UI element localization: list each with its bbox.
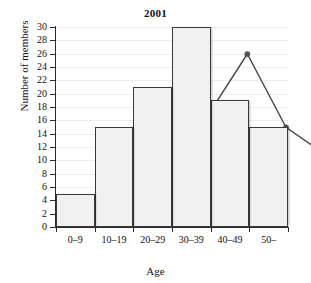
x-axis-tick (56, 227, 57, 232)
y-axis-tick-label: 10 (7, 155, 47, 165)
y-axis-tick-label: 18 (7, 102, 47, 112)
y-axis-tick (50, 147, 55, 148)
x-axis-title: Age (0, 265, 311, 277)
y-axis-tick-label: 20 (7, 89, 47, 99)
x-axis-tick-label: 0–9 (56, 234, 95, 245)
y-axis-tick (50, 214, 55, 215)
x-axis-tick (249, 227, 250, 232)
data-point-marker (245, 51, 250, 56)
y-axis-tick (50, 187, 55, 188)
y-axis-tick (50, 134, 55, 135)
y-axis-tick-label: 0 (7, 222, 47, 232)
bar (211, 100, 250, 227)
y-axis-tick-label: 24 (7, 62, 47, 72)
bar (249, 127, 288, 227)
y-axis-tick (50, 54, 55, 55)
x-axis-tick (95, 227, 96, 232)
bar (95, 127, 134, 227)
y-axis-tick-label: 14 (7, 129, 47, 139)
y-axis-tick-label: 6 (7, 182, 47, 192)
y-axis-tick (50, 94, 55, 95)
x-axis-tick (288, 227, 289, 232)
x-axis-tick-label: 40–49 (211, 234, 250, 245)
chart-title: 2001 (0, 7, 311, 19)
y-axis-tick-label: 8 (7, 169, 47, 179)
y-axis-tick (50, 67, 55, 68)
plot-area (56, 27, 288, 227)
x-axis-tick-label: 30–39 (172, 234, 211, 245)
bar (133, 87, 172, 227)
y-axis-tick-label: 4 (7, 195, 47, 205)
y-axis-tick-label: 2 (7, 209, 47, 219)
y-axis-tick (50, 40, 55, 41)
bar (172, 27, 211, 227)
x-axis-tick (133, 227, 134, 232)
x-axis-tick (211, 227, 212, 232)
y-axis-tick (50, 107, 55, 108)
bar (56, 194, 95, 227)
y-axis-tick-label: 12 (7, 142, 47, 152)
y-axis-tick (50, 27, 55, 28)
y-axis-tick (50, 200, 55, 201)
x-axis-tick (172, 227, 173, 232)
x-axis-tick-label: 10–19 (95, 234, 134, 245)
y-axis-tick (50, 227, 55, 228)
y-axis-tick-label: 26 (7, 49, 47, 59)
y-axis-tick (50, 174, 55, 175)
y-axis-tick-label: 22 (7, 75, 47, 85)
chart-figure: 2001 Number of members 02468101214161820… (0, 0, 311, 283)
y-axis-tick (50, 160, 55, 161)
y-axis-tick (50, 120, 55, 121)
x-axis-tick-label: 50– (249, 234, 288, 245)
y-axis-tick-label: 28 (7, 35, 47, 45)
x-axis-tick-label: 20–29 (133, 234, 172, 245)
y-axis-tick-label: 30 (7, 22, 47, 32)
y-axis-tick-label: 16 (7, 115, 47, 125)
y-axis-tick (50, 80, 55, 81)
